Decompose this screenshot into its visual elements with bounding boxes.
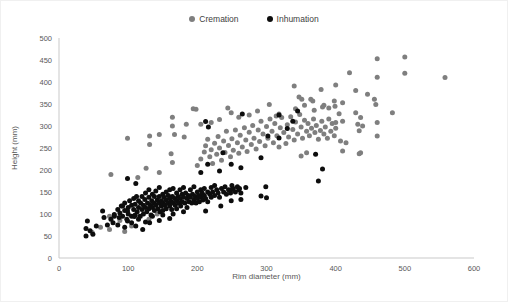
data-point-inhumation bbox=[320, 167, 325, 172]
data-point-inhumation bbox=[216, 190, 221, 195]
data-point-inhumation bbox=[167, 216, 172, 221]
data-point-inhumation bbox=[122, 225, 127, 230]
data-point-cremation bbox=[169, 151, 174, 156]
data-point-cremation bbox=[281, 130, 286, 135]
data-point-cremation bbox=[212, 141, 217, 146]
x-tick-label: 100 bbox=[122, 264, 135, 273]
data-point-cremation bbox=[245, 149, 250, 154]
data-point-cremation bbox=[236, 151, 241, 156]
data-point-cremation bbox=[250, 123, 255, 128]
data-point-cremation bbox=[217, 117, 222, 122]
data-point-cremation bbox=[198, 122, 203, 127]
data-point-cremation bbox=[358, 115, 363, 120]
data-point-cremation bbox=[375, 120, 380, 125]
data-point-inhumation bbox=[135, 209, 140, 214]
y-tick-label: 300 bbox=[39, 122, 52, 131]
data-point-cremation bbox=[390, 110, 395, 115]
data-point-cremation bbox=[357, 151, 362, 156]
data-point-inhumation bbox=[171, 212, 176, 217]
data-point-inhumation bbox=[132, 214, 137, 219]
data-point-inhumation bbox=[229, 162, 234, 167]
data-point-inhumation bbox=[112, 212, 117, 217]
data-point-cremation bbox=[321, 131, 326, 136]
data-point-inhumation bbox=[146, 187, 151, 192]
data-point-cremation bbox=[209, 120, 214, 125]
data-point-cremation bbox=[340, 100, 345, 105]
data-point-cremation bbox=[231, 148, 236, 153]
data-point-cremation bbox=[295, 131, 300, 136]
data-point-cremation bbox=[297, 95, 302, 100]
data-point-cremation bbox=[247, 130, 252, 135]
data-point-cremation bbox=[172, 132, 177, 137]
data-point-cremation bbox=[308, 97, 313, 102]
data-point-cremation bbox=[207, 154, 212, 159]
data-point-cremation bbox=[290, 127, 295, 132]
data-point-cremation bbox=[170, 124, 175, 129]
data-point-cremation bbox=[216, 134, 221, 139]
data-point-cremation bbox=[319, 87, 324, 92]
data-point-inhumation bbox=[85, 219, 90, 224]
data-point-inhumation bbox=[198, 170, 203, 175]
data-point-cremation bbox=[271, 140, 276, 145]
x-tick-label: 600 bbox=[468, 264, 481, 273]
data-point-cremation bbox=[249, 142, 254, 147]
data-point-cremation bbox=[323, 124, 328, 129]
y-tick-label: 350 bbox=[39, 100, 52, 109]
data-point-cremation bbox=[225, 106, 230, 111]
data-point-cremation bbox=[286, 135, 291, 140]
chart-plot-area[interactable]: 0100200300400500600050100150200250300350… bbox=[1, 1, 508, 302]
data-point-cremation bbox=[224, 129, 229, 134]
data-point-cremation bbox=[229, 136, 234, 141]
data-point-cremation bbox=[261, 131, 266, 136]
data-point-cremation bbox=[270, 129, 275, 134]
data-point-cremation bbox=[333, 126, 338, 131]
data-point-cremation bbox=[203, 143, 208, 148]
data-point-cremation bbox=[194, 107, 199, 112]
data-point-cremation bbox=[278, 125, 283, 130]
data-point-cremation bbox=[300, 136, 305, 141]
data-point-cremation bbox=[264, 124, 269, 129]
data-point-cremation bbox=[326, 117, 331, 122]
data-point-inhumation bbox=[263, 184, 268, 189]
data-point-cremation bbox=[357, 128, 362, 133]
x-tick-label: 300 bbox=[260, 264, 273, 273]
data-point-cremation bbox=[202, 150, 207, 155]
data-point-cremation bbox=[288, 114, 293, 119]
data-point-cremation bbox=[319, 119, 324, 124]
data-point-cremation bbox=[229, 110, 234, 115]
data-point-cremation bbox=[340, 149, 345, 154]
data-point-inhumation bbox=[220, 150, 225, 155]
data-point-cremation bbox=[333, 83, 338, 88]
data-point-inhumation bbox=[84, 234, 89, 239]
data-point-cremation bbox=[299, 153, 304, 158]
data-point-cremation bbox=[307, 133, 312, 138]
data-point-cremation bbox=[147, 134, 152, 139]
data-point-inhumation bbox=[203, 119, 208, 124]
data-point-cremation bbox=[355, 122, 360, 127]
data-point-inhumation bbox=[102, 215, 107, 220]
x-tick-label: 0 bbox=[57, 264, 61, 273]
data-point-cremation bbox=[306, 121, 311, 126]
data-point-inhumation bbox=[290, 119, 295, 124]
data-point-cremation bbox=[402, 71, 407, 76]
data-point-cremation bbox=[240, 145, 245, 150]
data-point-cremation bbox=[443, 75, 448, 80]
data-point-cremation bbox=[147, 142, 152, 147]
data-point-inhumation bbox=[111, 220, 116, 225]
data-point-cremation bbox=[302, 103, 307, 108]
data-point-cremation bbox=[254, 146, 259, 151]
data-point-inhumation bbox=[203, 208, 208, 213]
data-point-inhumation bbox=[140, 227, 145, 232]
data-point-inhumation bbox=[117, 215, 122, 220]
data-point-cremation bbox=[233, 128, 238, 133]
data-point-cremation bbox=[375, 134, 380, 139]
data-point-inhumation bbox=[90, 232, 95, 237]
data-point-inhumation bbox=[169, 207, 174, 212]
data-point-inhumation bbox=[217, 195, 222, 200]
data-point-cremation bbox=[182, 135, 187, 140]
data-point-cremation bbox=[247, 113, 252, 118]
data-point-cremation bbox=[198, 157, 203, 162]
data-point-cremation bbox=[292, 84, 297, 89]
data-point-cremation bbox=[304, 129, 309, 134]
data-point-inhumation bbox=[212, 183, 217, 188]
